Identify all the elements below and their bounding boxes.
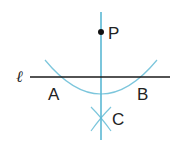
diagram-canvas: ℓ P A B C [0, 0, 184, 144]
line-l-label: ℓ [16, 67, 23, 86]
point-b-label: B [137, 85, 148, 104]
point-a-label: A [48, 85, 60, 104]
construction-figure: ℓ P A B C [0, 0, 184, 144]
point-p-dot [98, 29, 104, 35]
point-c-label: C [112, 110, 124, 129]
point-p-label: P [108, 24, 119, 43]
